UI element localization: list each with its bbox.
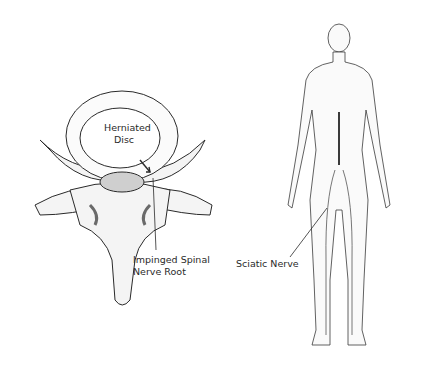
impinged-nerve-root-label-line2: Nerve Root: [133, 266, 210, 278]
diagram-canvas: [0, 0, 427, 365]
herniated-disc-label-line2: Disc: [104, 134, 144, 146]
herniated-disc-label-line1: Herniated: [104, 122, 144, 134]
impinged-nerve-root-label-line1: Impinged Spinal: [133, 254, 210, 266]
human-figure-illustration: [288, 24, 390, 345]
sciatic-nerve-label: Sciatic Nerve: [236, 258, 299, 270]
impinged-nerve-root-label: Impinged Spinal Nerve Root: [133, 254, 210, 278]
herniated-disc-label: Herniated Disc: [104, 122, 144, 146]
